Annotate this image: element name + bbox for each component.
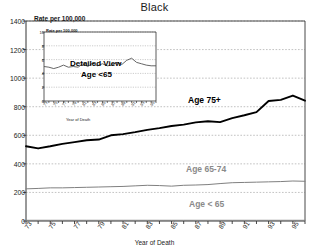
inset-y-axis-label: Rate per 100,000 (46, 28, 78, 33)
chart-figure: Black Rate per 100,000 Year of Death 020… (0, 0, 309, 252)
inset-title-line-1: Detailed View (70, 59, 121, 68)
inset-x-tick-label: 89 (120, 100, 127, 107)
inset-x-tick-label: 91 (130, 100, 137, 107)
inset-x-tick-label: 95 (149, 100, 156, 107)
inset-x-tick-label: 77 (61, 100, 68, 107)
series-label-age-65-74: Age 65-74 (186, 164, 226, 174)
inset-x-tick-label: 93 (139, 100, 146, 107)
inset-x-tick-label: 85 (100, 100, 107, 107)
inset-x-axis-tick-labels: 737577798183858789919395 (0, 0, 309, 252)
inset-x-tick-label: 73 (42, 100, 49, 107)
inset-x-tick-label: 79 (71, 100, 78, 107)
inset-x-tick-label: 75 (52, 100, 59, 107)
series-label-age-under-65: Age < 65 (189, 199, 224, 209)
inset-title-line-2: Age <65 (81, 70, 112, 79)
inset-x-tick-label: 81 (81, 100, 88, 107)
inset-x-tick-label: 83 (91, 100, 98, 107)
inset-x-tick-label: 87 (110, 100, 117, 107)
series-label-age-75-plus: Age 75+ (188, 95, 221, 105)
inset-x-axis-label: Year of Death (66, 117, 90, 122)
